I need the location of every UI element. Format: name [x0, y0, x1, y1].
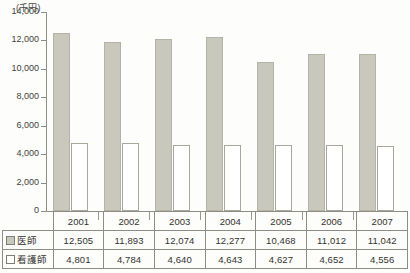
- table-cell: 12,074: [154, 231, 205, 250]
- table-header-year: 2007: [357, 212, 408, 231]
- bar-doctor: [257, 62, 274, 211]
- table-cell: 11,012: [306, 231, 357, 250]
- table-row: 医師 12,505 11,893 12,074 12,277 10,468 11…: [3, 231, 408, 250]
- y-axis-label-box: 14,000: [0, 7, 39, 16]
- bar-doctor: [359, 54, 376, 211]
- bar-nurse: [173, 145, 190, 211]
- legend-item-doctor: 医師: [3, 231, 54, 250]
- bar-group: [47, 12, 98, 211]
- footnote-cutoff: [3, 266, 407, 273]
- bar-doctor: [206, 37, 223, 212]
- table-header-year: 2005: [256, 212, 307, 231]
- bar-doctor: [308, 54, 325, 211]
- y-axis-tick-label: 12,000: [0, 35, 39, 44]
- y-axis-tick: [41, 69, 46, 70]
- y-axis-tick: [41, 40, 46, 41]
- y-axis-tick: [41, 183, 46, 184]
- y-axis-tick-label: 6,000: [0, 121, 39, 130]
- y-axis-label-box: 10,000: [0, 64, 39, 73]
- legend-label: 看護師: [17, 254, 47, 265]
- legend-swatch-icon: [6, 255, 15, 264]
- legend-swatch-icon: [6, 236, 15, 245]
- y-axis-tick: [41, 97, 46, 98]
- y-axis-label-box: 2,000: [0, 178, 39, 187]
- y-axis-tick-label: 4,000: [0, 149, 39, 158]
- table-header-year: 2006: [306, 212, 357, 231]
- bar-nurse: [71, 143, 88, 211]
- bar-doctor: [155, 39, 172, 211]
- table-header-row: 2001 2002 2003 2004 2005 2006 2007: [3, 212, 408, 231]
- y-axis-tick: [41, 126, 46, 127]
- table-header-year: 2001: [53, 212, 104, 231]
- data-table: 2001 2002 2003 2004 2005 2006 2007 医師 12…: [2, 211, 408, 269]
- y-axis-tick-label: 2,000: [0, 178, 39, 187]
- table-header-year: 2002: [104, 212, 155, 231]
- bar-group: [251, 12, 302, 211]
- y-axis-tick: [41, 12, 46, 13]
- chart-figure: (千円) 02,0004,0006,0008,00010,00012,00014…: [0, 0, 410, 273]
- legend-label: 医師: [17, 235, 37, 246]
- bar-group: [200, 12, 251, 211]
- bar-doctor: [53, 33, 70, 211]
- bar-nurse: [377, 146, 394, 211]
- bar-nurse: [224, 145, 241, 211]
- table-header-year: 2003: [154, 212, 205, 231]
- y-axis-label-box: 4,000: [0, 149, 39, 158]
- bar-doctor: [104, 42, 121, 211]
- y-axis-tick-label: 8,000: [0, 92, 39, 101]
- y-axis-tick: [41, 154, 46, 155]
- table-cell: 10,468: [256, 231, 307, 250]
- y-axis-label-box: 8,000: [0, 92, 39, 101]
- table-corner-cell: [3, 212, 54, 231]
- bar-group: [98, 12, 149, 211]
- y-axis-label-box: 6,000: [0, 121, 39, 130]
- bar-nurse: [122, 143, 139, 211]
- table-cell: 12,505: [53, 231, 104, 250]
- table-cell: 11,893: [104, 231, 155, 250]
- bar-nurse: [326, 145, 343, 211]
- plot-area: 02,0004,0006,0008,00010,00012,00014,000: [0, 12, 410, 212]
- bar-group: [149, 12, 200, 211]
- bar-group: [302, 12, 353, 211]
- table-cell: 12,277: [205, 231, 256, 250]
- table-header-year: 2004: [205, 212, 256, 231]
- y-axis-tick-label: 10,000: [0, 64, 39, 73]
- table-cell: 11,042: [357, 231, 408, 250]
- y-axis-tick-label: 14,000: [0, 7, 39, 16]
- bar-nurse: [275, 145, 292, 211]
- bar-group: [353, 12, 404, 211]
- y-axis-label-box: 12,000: [0, 35, 39, 44]
- bar-series-container: [47, 12, 404, 211]
